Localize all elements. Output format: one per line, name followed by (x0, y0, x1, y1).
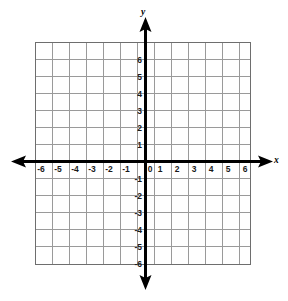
y-tick-label--3: -3 (134, 208, 142, 217)
coordinate-plane-figure: -6 -5 -4 -3 -2 -1 0 1 2 3 4 5 6 6 5 4 3 … (0, 0, 288, 301)
x-tick-label-6: 6 (243, 165, 248, 174)
y-tick-label-3: 3 (137, 106, 142, 115)
x-tick-label--5: -5 (54, 165, 62, 174)
x-tick-label-5: 5 (226, 165, 231, 174)
x-tick-label--4: -4 (71, 165, 79, 174)
x-axis-name-label: x (274, 156, 279, 166)
x-tick-label-3: 3 (192, 165, 197, 174)
y-tick-label--2: -2 (134, 191, 142, 200)
y-axis-name-label: y (141, 8, 145, 18)
x-tick-label-0: 0 (148, 165, 153, 174)
y-tick-label--6: -6 (134, 259, 142, 268)
x-tick-label-4: 4 (209, 165, 214, 174)
y-tick-label--4: -4 (134, 225, 142, 234)
x-tick-label-2: 2 (175, 165, 180, 174)
x-tick-label--2: -2 (105, 165, 113, 174)
y-tick-label-4: 4 (137, 89, 142, 98)
x-tick-label--1: -1 (122, 165, 130, 174)
y-tick-label--5: -5 (134, 242, 142, 251)
x-tick-label-1: 1 (158, 165, 163, 174)
y-tick-label-1: 1 (137, 140, 142, 149)
coordinate-grid-graphic (0, 0, 288, 301)
y-tick-label-2: 2 (137, 123, 142, 132)
y-tick-label-6: 6 (137, 55, 142, 64)
y-tick-label--1: -1 (134, 174, 142, 183)
x-tick-label--3: -3 (88, 165, 96, 174)
y-tick-label-5: 5 (137, 72, 142, 81)
grid-background (36, 42, 251, 265)
x-tick-label--6: -6 (37, 165, 45, 174)
